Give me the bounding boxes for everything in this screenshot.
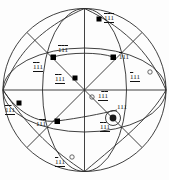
open-circle-marker[interactable] [148, 70, 152, 74]
filled-square-marker[interactable] [97, 17, 102, 22]
filled-square-marker[interactable] [51, 55, 57, 61]
pole-label: 111 [100, 124, 110, 132]
pole-label: 111 [104, 15, 114, 23]
open-circle-marker[interactable] [70, 155, 74, 159]
filled-square-marker[interactable] [55, 119, 61, 125]
pole-label: 111 [98, 93, 108, 101]
pole-label: 111 [5, 107, 15, 115]
pole-label: 111 [55, 76, 65, 84]
projection-drawing [0, 0, 169, 180]
pole-label: 111 [33, 64, 43, 72]
pole-label: 111 [117, 104, 127, 111]
stereographic-projection-figure: 111 111 111 111 111 111 111 111 111 111 … [0, 0, 169, 180]
circled-star-marker[interactable] [110, 115, 117, 122]
pole-label: 111 [36, 121, 46, 128]
pole-label: 111 [130, 74, 140, 82]
arc-inner-lower [57, 110, 117, 121]
filled-square-marker[interactable] [73, 76, 78, 81]
pole-label: 111 [58, 47, 68, 54]
pole-label: 111 [119, 54, 129, 61]
filled-square-marker[interactable] [17, 101, 22, 106]
pole-label: 111 [55, 159, 65, 167]
filled-square-marker[interactable] [111, 55, 117, 61]
